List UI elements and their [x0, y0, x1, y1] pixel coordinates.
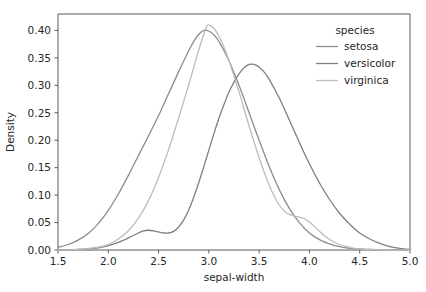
y-tick-label: 0.25: [28, 107, 51, 119]
x-tick-label: 1.5: [50, 255, 67, 267]
plot-canvas: 1.52.02.53.03.54.04.55.0 0.000.050.100.1…: [0, 0, 426, 292]
legend-label-virginica: virginica: [344, 74, 389, 86]
y-tick-label: 0.15: [28, 161, 51, 173]
y-tick-label: 0.20: [28, 134, 51, 146]
y-tick-label: 0.40: [28, 24, 51, 36]
y-tick-label: 0.00: [28, 244, 51, 256]
x-tick-label: 2.5: [150, 255, 167, 267]
legend-title: species: [335, 24, 374, 36]
kde-plot-figure: 1.52.02.53.03.54.04.55.0 0.000.050.100.1…: [0, 0, 426, 292]
legend-label-versicolor: versicolor: [344, 57, 396, 69]
y-tick-label: 0.30: [28, 79, 51, 91]
y-axis-title: Density: [4, 112, 16, 152]
x-tick-label: 3.5: [251, 255, 268, 267]
x-axis-title: sepal-width: [204, 271, 265, 283]
x-tick-label: 5.0: [402, 255, 419, 267]
y-tick-label: 0.05: [28, 216, 51, 228]
x-tick-label: 3.0: [201, 255, 218, 267]
y-tick-label: 0.35: [28, 52, 51, 64]
x-tick-label: 2.0: [100, 255, 117, 267]
y-axis-tick-labels: 0.000.050.100.150.200.250.300.350.40: [28, 24, 51, 256]
x-tick-label: 4.0: [301, 255, 318, 267]
x-tick-label: 4.5: [351, 255, 368, 267]
y-tick-label: 0.10: [28, 189, 51, 201]
legend-label-setosa: setosa: [344, 40, 378, 52]
